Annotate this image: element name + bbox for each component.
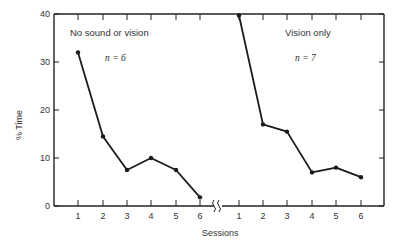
data-point	[334, 165, 338, 169]
x-tick-label: 6	[358, 211, 363, 221]
panel-label-no-sound-or-vision: No sound or vision	[70, 27, 149, 38]
x-tick-label: 4	[148, 211, 153, 221]
series-line-1	[78, 52, 200, 197]
x-tick-label: 3	[124, 211, 129, 221]
x-tick-label: 1	[236, 211, 241, 221]
y-tick-label: 10	[40, 153, 50, 163]
y-axis-title: % Time	[14, 110, 24, 140]
x-tick-label: 4	[309, 211, 314, 221]
n-label-right: n = 7	[295, 53, 317, 63]
data-point	[76, 50, 80, 54]
data-point	[149, 156, 153, 160]
x-tick-label: 6	[197, 211, 202, 221]
x-axis-title: Sessions	[202, 228, 239, 238]
data-point	[174, 168, 178, 172]
y-tick-label: 20	[40, 105, 50, 115]
data-point	[310, 170, 314, 174]
n-label-left: n = 6	[105, 53, 126, 63]
x-tick-label: 3	[284, 211, 289, 221]
axes: 010203040123456123456	[40, 9, 384, 221]
data-point	[359, 175, 363, 179]
x-tick-label: 5	[333, 211, 338, 221]
panel-label-vision-only: Vision only	[285, 27, 331, 38]
y-tick-label: 30	[40, 57, 50, 67]
data-point	[125, 168, 129, 172]
axis-break-icon	[218, 200, 221, 212]
data-point	[198, 195, 202, 199]
series-line-2	[239, 15, 361, 177]
data-point	[285, 129, 289, 133]
y-tick-label: 0	[45, 201, 50, 211]
y-tick-label: 40	[40, 9, 50, 19]
data-point	[237, 13, 241, 17]
series	[76, 13, 363, 199]
data-point	[101, 134, 105, 138]
chart: 010203040123456123456 No sound or vision…	[0, 0, 399, 250]
x-tick-label: 2	[260, 211, 265, 221]
x-tick-label: 5	[173, 211, 178, 221]
data-point	[261, 122, 265, 126]
x-tick-label: 1	[75, 211, 80, 221]
x-tick-label: 2	[100, 211, 105, 221]
